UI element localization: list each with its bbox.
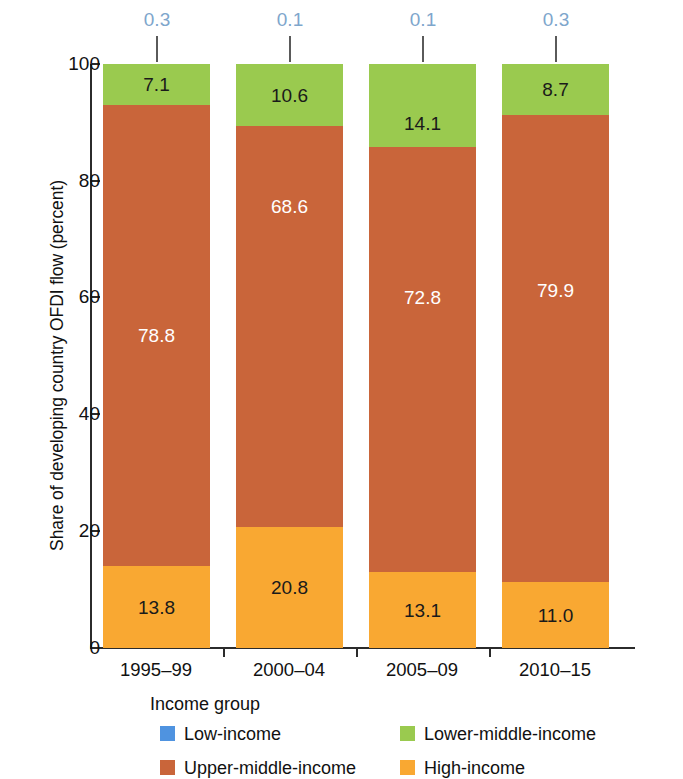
segment-value-label: 72.8 <box>404 288 441 307</box>
segment-value-label: 68.6 <box>271 197 308 216</box>
segment-lower-middle-income: 7.1 <box>103 64 210 105</box>
legend-label-upper-middle-income: Upper-middle-income <box>184 759 356 777</box>
legend-item-low-income[interactable]: Low-income <box>160 725 281 743</box>
x-tick-mark-1 <box>223 649 225 657</box>
segment-lower-middle-income: 14.1 <box>369 64 476 147</box>
callout-leader-line-1995-99 <box>156 36 158 62</box>
legend-title: Income group <box>150 694 670 715</box>
y-tick-label-20: 20 <box>54 521 100 540</box>
x-tick-mark-3 <box>489 649 491 657</box>
legend-item-lower-middle-income[interactable]: Lower-middle-income <box>400 725 596 743</box>
callout-value-low-income-2010-15: 0.3 <box>526 10 586 29</box>
callout-leader-line-2000-04 <box>289 36 291 62</box>
segment-value-label: 79.9 <box>537 281 574 300</box>
segment-value-label: 11.0 <box>538 606 574 625</box>
y-tick-label-0: 0 <box>54 638 100 657</box>
y-tick-label-80: 80 <box>54 171 100 190</box>
segment-value-label: 8.7 <box>542 80 568 99</box>
x-axis-label-2010-15: 2010–15 <box>485 661 625 680</box>
callout-leader-line-2010-15 <box>555 36 557 62</box>
segment-upper-middle-income: 79.9 <box>502 115 609 582</box>
segment-high-income: 13.1 <box>369 572 476 648</box>
legend-swatch-upper-middle-income-icon <box>160 760 175 775</box>
segment-lower-middle-income: 10.6 <box>236 64 343 126</box>
legend-swatch-high-income-icon <box>400 760 415 775</box>
segment-upper-middle-income: 72.8 <box>369 147 476 572</box>
bar-2010-15: 8.7 79.9 11.0 <box>502 64 609 648</box>
segment-high-income: 11.0 <box>502 582 609 648</box>
legend-item-high-income[interactable]: High-income <box>400 759 525 777</box>
segment-value-label: 14.1 <box>404 114 441 133</box>
callout-leader-line-2005-09 <box>422 36 424 62</box>
callout-value-low-income-2005-09: 0.1 <box>393 10 453 29</box>
bar-2000-04: 10.6 68.6 20.8 <box>236 64 343 648</box>
y-axis-title: Share of developing country OFDI flow (p… <box>47 66 68 666</box>
y-tick-label-40: 40 <box>54 404 100 423</box>
segment-value-label: 10.6 <box>271 86 308 105</box>
segment-high-income: 20.8 <box>236 527 343 648</box>
segment-upper-middle-income: 68.6 <box>236 126 343 527</box>
legend-label-high-income: High-income <box>424 759 525 777</box>
y-tick-label-60: 60 <box>54 287 100 306</box>
segment-value-label: 7.1 <box>143 75 169 94</box>
bar-1995-99: 7.1 78.8 13.8 <box>103 64 210 648</box>
legend-label-lower-middle-income: Lower-middle-income <box>424 725 596 743</box>
y-tick-label-100: 100 <box>54 54 100 73</box>
x-tick-mark-2 <box>356 649 358 657</box>
x-axis-label-2000-04: 2000–04 <box>219 661 359 680</box>
segment-value-label: 13.8 <box>138 598 175 617</box>
segment-value-label: 13.1 <box>404 601 441 620</box>
callout-value-low-income-2000-04: 0.1 <box>260 10 320 29</box>
x-axis-label-1995-99: 1995–99 <box>86 661 226 680</box>
legend-swatch-low-income-icon <box>160 726 175 741</box>
x-axis-label-2005-09: 2005–09 <box>352 661 492 680</box>
legend-label-low-income: Low-income <box>184 725 281 743</box>
legend-item-upper-middle-income[interactable]: Upper-middle-income <box>160 759 356 777</box>
callout-value-low-income-1995-99: 0.3 <box>127 10 187 29</box>
segment-lower-middle-income: 8.7 <box>502 64 609 115</box>
segment-upper-middle-income: 78.8 <box>103 105 210 566</box>
bar-2005-09: 14.1 72.8 13.1 <box>369 64 476 648</box>
segment-value-label: 20.8 <box>271 578 308 597</box>
legend-swatch-lower-middle-income-icon <box>400 726 415 741</box>
y-axis-line <box>90 64 92 649</box>
segment-value-label: 78.8 <box>138 326 175 345</box>
legend: Income group Low-income Lower-middle-inc… <box>150 694 670 779</box>
segment-high-income: 13.8 <box>103 566 210 648</box>
